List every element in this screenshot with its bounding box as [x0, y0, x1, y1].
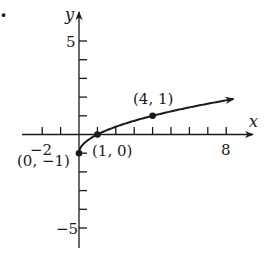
y-tick-label-neg5: −5 — [56, 220, 78, 238]
x-axis-label: x — [249, 112, 258, 131]
list-bullet: . — [0, 0, 7, 22]
point-0-neg1 — [76, 150, 83, 157]
function-graph: . x y −2 8 5 −5 (0, −1) (1, 0) (4, 1) — [0, 0, 268, 266]
y-axis-label: y — [64, 5, 75, 24]
x-tick-label-8: 8 — [221, 141, 231, 159]
point-4-1 — [149, 113, 156, 120]
point-label-4-1: (4, 1) — [133, 90, 173, 108]
point-1-0 — [94, 131, 101, 138]
point-label-0-neg1: (0, −1) — [17, 152, 70, 170]
point-label-1-0: (1, 0) — [92, 142, 132, 160]
y-tick-label-5: 5 — [66, 33, 76, 51]
x-axis-ticks — [42, 127, 226, 135]
